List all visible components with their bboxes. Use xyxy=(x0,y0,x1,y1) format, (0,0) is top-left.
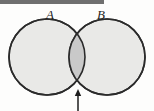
set-label-b: B xyxy=(97,7,105,22)
set-label-a: A xyxy=(45,7,54,22)
top-rule-bar xyxy=(0,0,104,4)
venn-diagram-figure: A B xyxy=(0,0,154,111)
venn-diagram-canvas: A B xyxy=(0,0,154,111)
intersection-pointer-arrow-head xyxy=(75,89,81,96)
